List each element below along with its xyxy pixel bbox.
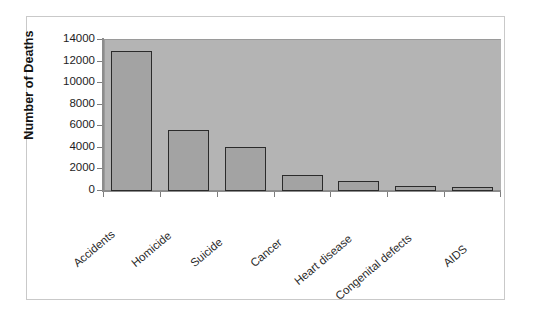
y-tick-mark — [97, 147, 102, 148]
y-tick-label: 2000 — [49, 162, 95, 174]
y-axis-line — [102, 38, 104, 191]
y-tick-label: 0 — [49, 184, 95, 196]
x-tick-mark — [274, 192, 275, 197]
bar-heart-disease — [338, 181, 379, 191]
x-tick-mark — [444, 192, 445, 197]
x-tick-mark — [103, 192, 104, 197]
y-tick-label: 10000 — [49, 76, 95, 88]
x-tick-mark — [387, 192, 388, 197]
bar-aids — [452, 187, 493, 192]
y-tick-label: 8000 — [49, 98, 95, 110]
bar-homicide — [168, 130, 209, 192]
bar-chart-figure: Number of Deaths 14000 12000 10000 8000 … — [0, 0, 533, 316]
bar-cancer — [282, 175, 323, 191]
y-tick-label: 4000 — [49, 141, 95, 153]
y-tick-mark — [97, 104, 102, 105]
y-axis-title: Number of Deaths — [22, 20, 36, 150]
y-tick-mark — [97, 168, 102, 169]
bar-accidents — [111, 51, 152, 191]
bar-congenital-defects — [395, 186, 436, 192]
y-tick-mark — [97, 190, 102, 191]
y-tick-label: 6000 — [49, 119, 95, 131]
x-tick-mark — [160, 192, 161, 197]
y-tick-mark — [97, 82, 102, 83]
x-tick-mark — [330, 192, 331, 197]
y-tick-mark — [97, 125, 102, 126]
y-tick-label: 14000 — [49, 33, 95, 45]
bar-suicide — [225, 147, 266, 191]
y-tick-mark — [97, 39, 102, 40]
x-tick-mark — [500, 192, 501, 197]
plot-area — [103, 39, 501, 190]
y-tick-label: 12000 — [49, 55, 95, 67]
y-tick-mark — [97, 61, 102, 62]
x-tick-mark — [217, 192, 218, 197]
